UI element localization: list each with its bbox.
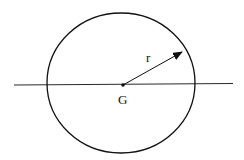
radius-label: r [146, 50, 151, 65]
circle-diagram: r G [0, 0, 244, 160]
circle [47, 13, 195, 153]
center-label: G [118, 92, 127, 107]
radius-arrow [123, 52, 182, 85]
diagram-canvas: r G [0, 0, 244, 160]
center-point [121, 83, 125, 87]
